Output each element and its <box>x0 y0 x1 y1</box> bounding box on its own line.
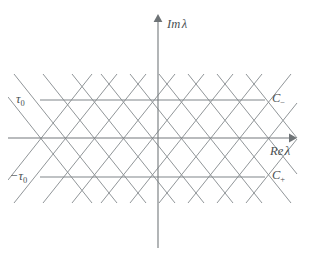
real-axis-label-symbol: λ <box>283 144 290 158</box>
imaginary-axis-label-text: Im <box>167 17 180 31</box>
tau-negative-symbol: −τ <box>10 169 23 183</box>
tau-negative-subscript: 0 <box>23 175 27 185</box>
contour-c-minus-subscript: − <box>280 97 285 107</box>
imaginary-axis-label: Imλ <box>167 18 187 31</box>
contour-c-minus-label: C− <box>272 92 285 106</box>
tau-negative-label: −τ0 <box>10 170 27 184</box>
figure-canvas <box>0 0 317 262</box>
contour-c-plus-label: C+ <box>272 169 285 183</box>
tau-positive-label: τ0 <box>16 93 25 107</box>
tau-positive-subscript: 0 <box>20 98 24 108</box>
imaginary-axis-arrow-icon <box>154 14 163 22</box>
contour-c-plus-subscript: + <box>280 174 285 184</box>
lambda-plane-figure: Imλ Reλ τ0 −τ0 C− C+ <box>0 0 317 262</box>
imaginary-axis-label-symbol: λ <box>180 17 187 31</box>
real-axis-label-text: Re <box>270 144 283 158</box>
real-axis-label: Reλ <box>270 145 290 158</box>
